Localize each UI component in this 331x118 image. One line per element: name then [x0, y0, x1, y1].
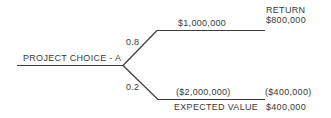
expected-value: $400,000 [266, 102, 306, 112]
lower-probability: 0.2 [126, 82, 139, 92]
upper-branch-diagonal [123, 31, 157, 66]
root-label: PROJECT CHOICE - A [23, 53, 121, 63]
upper-probability: 0.8 [126, 37, 139, 47]
expected-value-label: EXPECTED VALUE [174, 102, 258, 112]
lower-outcome: ($2,000,000) [176, 87, 231, 97]
upper-return: $800,000 [266, 15, 306, 25]
upper-outcome: $1,000,000 [178, 18, 226, 28]
lower-return: ($400,000) [265, 87, 312, 97]
return-header: RETURN [266, 5, 305, 15]
